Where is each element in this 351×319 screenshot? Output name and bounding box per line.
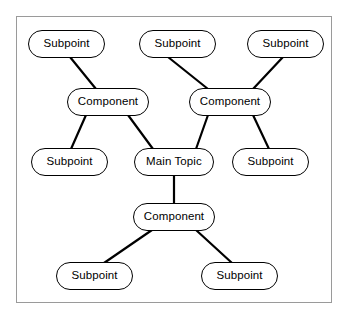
node-label: Subpoint <box>71 270 117 282</box>
node-label: Main Topic <box>146 156 202 168</box>
node-comp_l[interactable]: Component <box>67 88 149 116</box>
node-label: Subpoint <box>247 156 293 168</box>
node-label: Component <box>200 96 260 108</box>
node-label: Component <box>144 211 204 223</box>
edge-sub_tl-to-comp_l <box>70 57 96 89</box>
edge-comp_r-to-main <box>196 115 208 149</box>
node-sub_mr[interactable]: Subpoint <box>232 148 309 176</box>
node-sub_tm[interactable]: Subpoint <box>139 30 216 58</box>
edge-sub_tr-to-comp_r <box>253 57 283 89</box>
node-label: Subpoint <box>43 38 89 50</box>
node-sub_tr[interactable]: Subpoint <box>247 30 324 58</box>
edge-sub_tm-to-comp_r <box>168 57 208 89</box>
node-comp_b[interactable]: Component <box>133 203 215 231</box>
node-label: Subpoint <box>216 270 262 282</box>
node-sub_bl[interactable]: Subpoint <box>56 262 133 290</box>
edge-comp_l-to-sub_ml <box>71 115 86 149</box>
node-sub_br[interactable]: Subpoint <box>201 262 278 290</box>
edge-comp_l-to-main <box>128 115 153 149</box>
node-sub_ml[interactable]: Subpoint <box>31 148 108 176</box>
node-comp_r[interactable]: Component <box>189 88 271 116</box>
node-sub_tl[interactable]: Subpoint <box>28 30 105 58</box>
node-label: Component <box>78 96 138 108</box>
edge-comp_r-to-sub_mr <box>253 115 269 149</box>
node-label: Subpoint <box>262 38 308 50</box>
node-main[interactable]: Main Topic <box>134 148 214 176</box>
mind-map-diagram: SubpointSubpointSubpointComponentCompone… <box>0 0 351 319</box>
edge-comp_b-to-sub_br <box>196 230 232 263</box>
edge-comp_b-to-sub_bl <box>104 230 152 263</box>
node-label: Subpoint <box>154 38 200 50</box>
node-label: Subpoint <box>46 156 92 168</box>
